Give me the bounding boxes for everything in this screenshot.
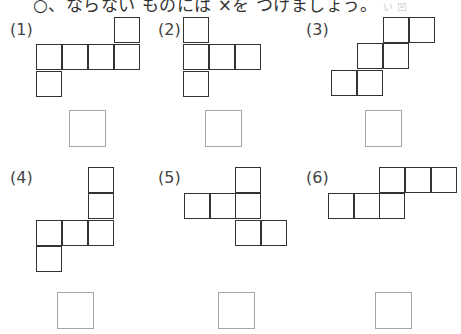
net-square [409, 17, 435, 43]
net-square [328, 193, 354, 219]
answer-box[interactable] [57, 292, 94, 329]
net-square [383, 17, 409, 43]
instruction-text: ○、ならない ものには ×を つけましょう。い 凹 [33, 0, 408, 16]
net-square [88, 44, 114, 70]
net-square [36, 44, 62, 70]
answer-box[interactable] [375, 292, 412, 329]
net-square [405, 167, 431, 193]
answer-box[interactable] [69, 110, 106, 147]
net-square [235, 193, 261, 219]
instruction-faint: い 凹 [383, 2, 408, 13]
net-square [114, 44, 140, 70]
net-square [379, 167, 405, 193]
problem-label: (4) [10, 168, 33, 187]
net-square [209, 44, 235, 70]
net-square [62, 44, 88, 70]
problem-label: (3) [306, 20, 329, 39]
net-square [114, 17, 140, 43]
answer-box[interactable] [365, 110, 402, 147]
net-square [261, 220, 287, 246]
net-square [431, 167, 457, 193]
net-square [184, 193, 210, 219]
net-square [62, 220, 88, 246]
problem-label: (6) [306, 168, 329, 187]
answer-box[interactable] [218, 292, 255, 329]
net-square [88, 220, 114, 246]
net-square [235, 220, 261, 246]
problem-label: (1) [10, 20, 33, 39]
net-square [36, 71, 62, 97]
net-square [36, 220, 62, 246]
net-square [210, 193, 236, 219]
net-square [354, 193, 380, 219]
net-square [235, 44, 261, 70]
net-square [36, 246, 62, 272]
net-square [183, 17, 209, 43]
problem-label: (2) [158, 20, 181, 39]
net-square [331, 70, 357, 96]
problem-label: (5) [158, 168, 181, 187]
net-square [379, 193, 405, 219]
net-square [235, 167, 261, 193]
instruction-main: ○、ならない ものには ×を つけましょう。 [33, 0, 377, 15]
net-square [383, 43, 409, 69]
answer-box[interactable] [205, 110, 242, 147]
net-square [183, 71, 209, 97]
net-square [357, 70, 383, 96]
net-square [357, 43, 383, 69]
net-square [88, 193, 114, 219]
net-square [88, 167, 114, 193]
net-square [183, 44, 209, 70]
